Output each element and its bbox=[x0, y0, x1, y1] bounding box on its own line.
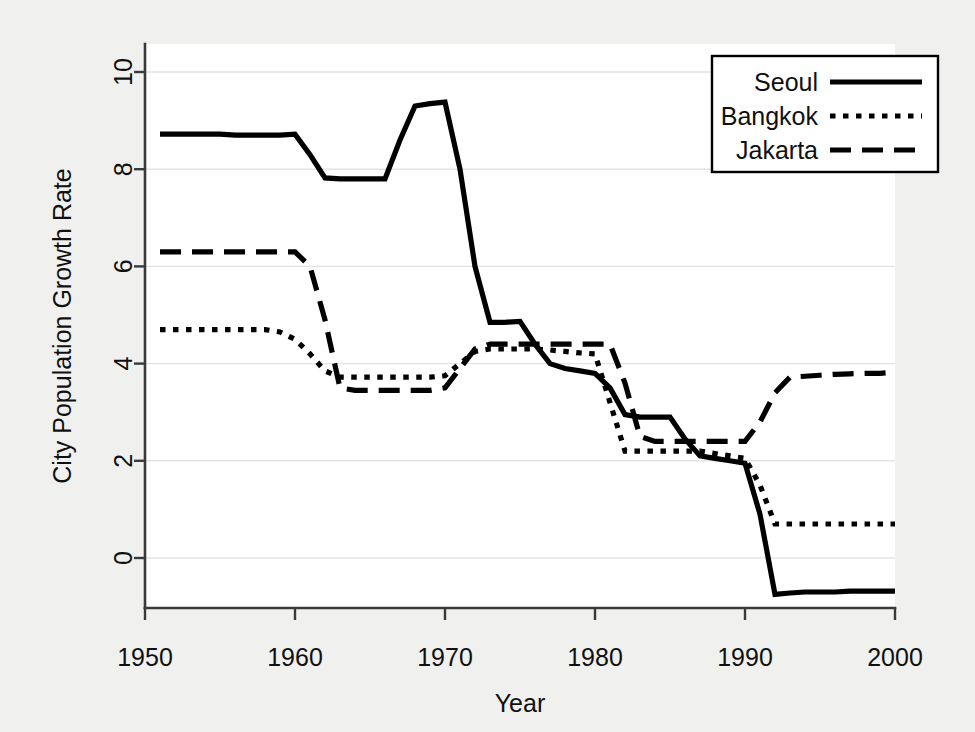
y-tick-label-8: 8 bbox=[109, 162, 137, 176]
legend-label-seoul: Seoul bbox=[754, 68, 818, 96]
x-axis-title: Year bbox=[495, 689, 546, 717]
x-tick-label-1960: 1960 bbox=[267, 643, 323, 671]
legend-label-jakarta: Jakarta bbox=[736, 136, 818, 164]
y-tick-label-0: 0 bbox=[109, 551, 137, 565]
x-tick-label-1990: 1990 bbox=[717, 643, 773, 671]
x-tick-label-1970: 1970 bbox=[417, 643, 473, 671]
chart-canvas: 0246810195019601970198019902000YearCity … bbox=[0, 0, 975, 732]
y-tick-label-4: 4 bbox=[109, 357, 137, 371]
y-tick-label-2: 2 bbox=[109, 454, 137, 468]
y-tick-label-6: 6 bbox=[109, 259, 137, 273]
y-tick-label-10: 10 bbox=[109, 58, 137, 86]
x-tick-label-2000: 2000 bbox=[867, 643, 923, 671]
line-chart: 0246810195019601970198019902000YearCity … bbox=[0, 0, 975, 732]
figure-container: 0246810195019601970198019902000YearCity … bbox=[0, 0, 975, 732]
x-tick-label-1980: 1980 bbox=[567, 643, 623, 671]
y-axis-title: City Population Growth Rate bbox=[48, 168, 76, 483]
legend-label-bangkok: Bangkok bbox=[721, 102, 819, 130]
x-tick-label-1950: 1950 bbox=[117, 643, 173, 671]
